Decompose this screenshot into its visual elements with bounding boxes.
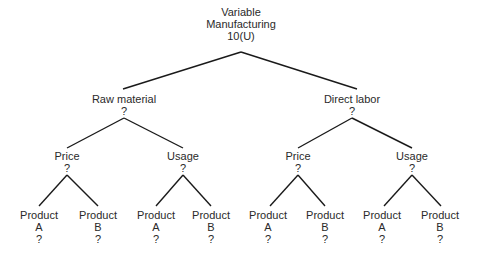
leaf-sub: A	[137, 221, 175, 233]
root-line-3: 10(U)	[206, 30, 276, 42]
leaf-sub: A	[363, 221, 401, 233]
node-label: Price	[285, 150, 310, 162]
leaf-rm-usage-product-b: Product B ?	[192, 209, 230, 245]
node-value: ?	[285, 162, 310, 174]
leaf-dl-usage-product-a: Product A ?	[363, 209, 401, 245]
node-direct-labor: Direct labor ?	[324, 93, 380, 117]
leaf-label: Product	[192, 209, 230, 221]
leaf-value: ?	[192, 233, 230, 245]
node-label: Price	[54, 150, 79, 162]
leaf-rm-usage-product-a: Product A ?	[137, 209, 175, 245]
node-value: ?	[92, 105, 156, 117]
leaf-value: ?	[306, 233, 344, 245]
leaf-value: ?	[20, 233, 58, 245]
node-value: ?	[54, 162, 79, 174]
leaf-label: Product	[137, 209, 175, 221]
leaf-value: ?	[79, 233, 117, 245]
node-raw-material-price: Price ?	[54, 150, 79, 174]
node-value: ?	[396, 162, 428, 174]
leaf-sub: A	[249, 221, 287, 233]
node-raw-material-usage: Usage ?	[167, 150, 199, 174]
root-node-variable-manufacturing: Variable Manufacturing 10(U)	[206, 6, 276, 42]
root-line-2: Manufacturing	[206, 18, 276, 30]
leaf-sub: B	[79, 221, 117, 233]
node-direct-labor-price: Price ?	[285, 150, 310, 174]
leaf-sub: B	[192, 221, 230, 233]
leaf-rm-price-product-b: Product B ?	[79, 209, 117, 245]
node-label: Usage	[167, 150, 199, 162]
leaf-value: ?	[249, 233, 287, 245]
node-label: Direct labor	[324, 93, 380, 105]
leaf-sub: B	[421, 221, 459, 233]
leaf-label: Product	[249, 209, 287, 221]
node-raw-material: Raw material ?	[92, 93, 156, 117]
leaf-label: Product	[363, 209, 401, 221]
node-value: ?	[324, 105, 380, 117]
node-value: ?	[167, 162, 199, 174]
leaf-label: Product	[20, 209, 58, 221]
root-line-1: Variable	[206, 6, 276, 18]
leaf-label: Product	[79, 209, 117, 221]
leaf-label: Product	[306, 209, 344, 221]
leaf-value: ?	[363, 233, 401, 245]
leaf-value: ?	[137, 233, 175, 245]
leaf-sub: A	[20, 221, 58, 233]
leaf-label: Product	[421, 209, 459, 221]
leaf-dl-price-product-a: Product A ?	[249, 209, 287, 245]
leaf-dl-usage-product-b: Product B ?	[421, 209, 459, 245]
leaf-value: ?	[421, 233, 459, 245]
node-label: Raw material	[92, 93, 156, 105]
leaf-rm-price-product-a: Product A ?	[20, 209, 58, 245]
node-label: Usage	[396, 150, 428, 162]
leaf-sub: B	[306, 221, 344, 233]
node-direct-labor-usage: Usage ?	[396, 150, 428, 174]
leaf-dl-price-product-b: Product B ?	[306, 209, 344, 245]
